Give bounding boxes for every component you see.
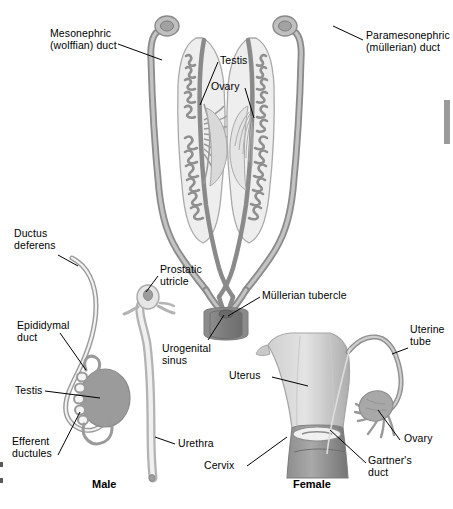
right-prostatic-bud-2 xyxy=(160,303,174,306)
male-derivatives-group xyxy=(66,258,174,481)
embryology-genital-duct-figure: Mesonephric (wolffian) duct Paramesoneph… xyxy=(0,0,453,509)
urethral-orifice xyxy=(149,475,155,482)
label-efferent-ductules: Efferent ductules xyxy=(12,436,52,459)
leader-cervix xyxy=(247,437,287,466)
label-cervix: Cervix xyxy=(204,460,234,472)
leader-urethra xyxy=(155,437,175,444)
diagram-canvas xyxy=(0,0,453,509)
uterus-left-cornu xyxy=(256,345,270,356)
uterus-body xyxy=(268,333,350,428)
right-duct-ostium-inner xyxy=(279,21,292,31)
label-mesonephric-duct: Mesonephric (wolffian) duct xyxy=(50,28,117,51)
label-prostatic-utricle: Prostatic utricle xyxy=(160,264,202,287)
label-mullerian-tubercle: Müllerian tubercle xyxy=(262,290,347,302)
label-paramesonephric-duct: Paramesonephric (müllerian) duct xyxy=(366,30,450,53)
label-ovary-top: Ovary xyxy=(211,81,240,93)
label-urogenital-sinus: Urogenital sinus xyxy=(162,343,211,366)
leader-paramesonephric xyxy=(333,26,363,40)
label-testis-male: Testis xyxy=(15,385,42,397)
label-testis-top: Testis xyxy=(220,55,247,67)
leader-mesonephric xyxy=(118,44,162,60)
right-edge-bar xyxy=(444,100,450,144)
left-edge-mark-1 xyxy=(0,462,3,467)
label-gartners-duct: Gartner's duct xyxy=(368,455,412,478)
prostatic-utricle xyxy=(144,290,153,301)
caption-male: Male xyxy=(92,478,116,490)
label-ductus-deferens: Ductus deferens xyxy=(14,228,56,251)
label-ovary-female: Ovary xyxy=(404,433,433,445)
label-uterine-tube: Uterine tube xyxy=(410,324,445,347)
epididymal-duct xyxy=(85,356,100,372)
caption-female: Female xyxy=(293,478,331,490)
right-prostatic-bud xyxy=(158,306,174,313)
left-duct-ostium-inner xyxy=(161,21,174,31)
label-uterus: Uterus xyxy=(229,370,261,382)
label-epididymal-duct: Epididymal duct xyxy=(17,320,69,343)
left-edge-mark-2 xyxy=(0,478,3,483)
label-urethra: Urethra xyxy=(178,438,214,450)
